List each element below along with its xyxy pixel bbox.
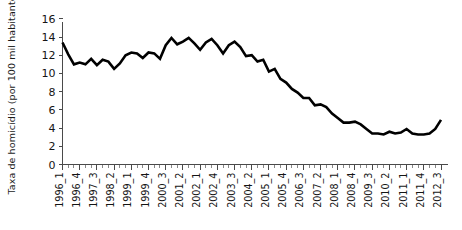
y-tick-label: 14 [42, 31, 56, 44]
y-tick-label: 2 [49, 140, 56, 153]
x-tick-label: 1997_3 [88, 173, 100, 208]
x-tick-label: 2011_4 [415, 173, 427, 208]
y-tick-label: 12 [42, 49, 56, 62]
x-tick-label: 2009_3 [363, 173, 375, 208]
y-tick-label: 10 [42, 67, 56, 80]
x-tick-label: 2004_2 [243, 173, 255, 208]
x-tick-label: 2002_1 [191, 173, 203, 208]
x-tick-label: 2001_2 [174, 173, 186, 208]
x-tick-label: 2002_4 [208, 173, 220, 208]
x-tick-label: 2011_1 [398, 173, 410, 208]
x-tick-label: 2005_1 [260, 173, 272, 208]
x-tick-label: 2010_2 [380, 173, 392, 208]
x-tick-label: 1996_4 [71, 173, 83, 208]
x-axis: 1996_11996_41997_31998_21999_11999_42000… [54, 165, 449, 208]
x-tick-label: 1996_1 [54, 173, 66, 208]
chart-plot-area: 0246810121416 1996_11996_41997_31998_219… [0, 0, 462, 230]
x-tick-label: 2003_3 [226, 173, 238, 208]
y-tick-label: 4 [49, 122, 56, 135]
x-tick-label: 2008_4 [346, 173, 358, 208]
x-tick-label: 2006_3 [294, 173, 306, 208]
y-tick-label: 6 [49, 104, 56, 117]
y-tick-label: 0 [49, 159, 56, 172]
y-axis: 0246810121416 [42, 13, 63, 172]
x-tick-label: 1998_2 [105, 173, 117, 208]
x-tick-label: 2008_1 [329, 173, 341, 208]
x-tick-label: 1999_4 [140, 173, 152, 208]
x-tick-label: 1999_1 [122, 173, 134, 208]
homicide-rate-chart: Taxa de homicídio (por 100 mil habitante… [0, 0, 462, 230]
x-tick-label: 2005_4 [277, 173, 289, 208]
x-tick-label: 2012_3 [432, 173, 444, 208]
y-tick-label: 8 [49, 86, 56, 99]
data-series [63, 38, 442, 135]
homicide-rate-line [63, 38, 442, 135]
x-tick-label: 2000_3 [157, 173, 169, 208]
y-tick-label: 16 [42, 13, 56, 26]
x-tick-label: 2007_2 [312, 173, 324, 208]
